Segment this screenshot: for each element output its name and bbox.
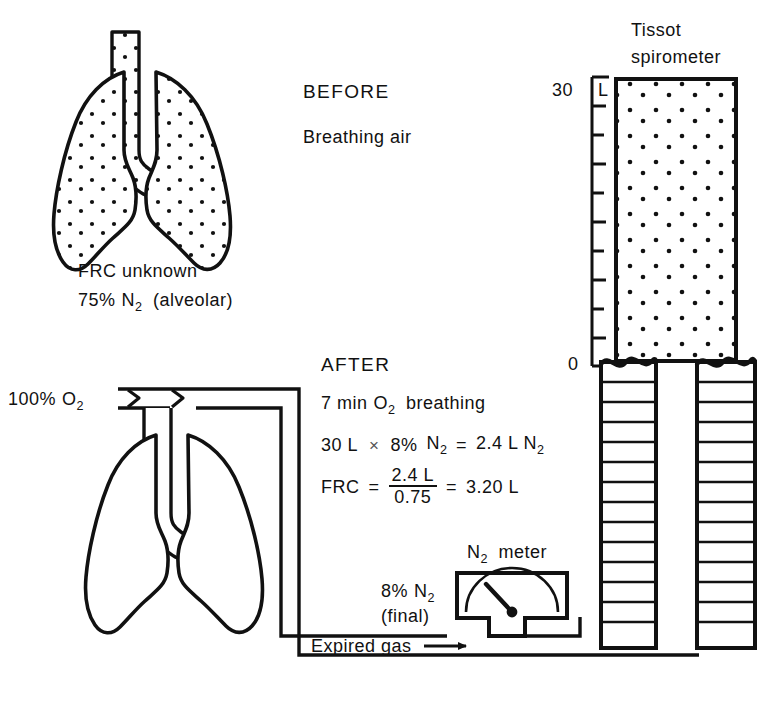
tank-left-wall <box>601 362 656 648</box>
oxygen-source-label: 100%O2 <box>8 390 84 412</box>
after-duration-value: 7 min <box>321 393 368 413</box>
equation1-equals: = <box>456 436 467 454</box>
water-tank-left-column <box>601 362 656 648</box>
frc-equation-equals-2: = <box>446 478 457 496</box>
frc-equation: FRC = 2.4 L 0.75 = 3.20 L <box>321 467 519 507</box>
tank-right-wall <box>697 362 755 648</box>
spirometer-scale-bottom-value: 0 <box>568 355 579 373</box>
n2-reading-gas-subscript: 2 <box>428 591 435 605</box>
frc-equation-label: FRC <box>321 478 360 496</box>
spirometer-scale-unit: L <box>598 81 609 99</box>
after-lungs-illustration <box>85 389 280 633</box>
spirometer-title-line2: spirometer <box>631 48 721 66</box>
after-breathing-duration: 7 minO2breathing <box>321 394 486 416</box>
after-right-lung <box>178 435 263 632</box>
frc-washout-figure: BEFORE Breathing air FRC unknown 75%N2(a… <box>0 0 771 704</box>
before-alveolar-note: (alveolar) <box>153 290 233 310</box>
before-lungs-illustration <box>53 32 230 270</box>
frc-fraction: 2.4 L 0.75 <box>389 466 438 506</box>
n2-meter-reading: 8%N2 <box>381 582 435 604</box>
before-subheading: Breathing air <box>303 128 412 146</box>
spirometer-scale-top-value: 30 <box>552 81 573 99</box>
n2-reading-state: (final) <box>381 607 430 625</box>
equation1-result-subscript: 2 <box>537 443 544 457</box>
before-frc-caption: FRC unknown <box>78 262 198 280</box>
equation1-result: 2.4 L N <box>476 433 537 453</box>
equation1-gas-term: N2 <box>427 434 448 456</box>
expiratory-valve-chevron <box>172 390 183 407</box>
y-valve-assembly <box>118 389 280 408</box>
oxygen-source-symbol: O <box>62 389 77 409</box>
nitrogen-volume-equation: 30 L × 8% N2 = 2.4 L N2 <box>321 434 544 456</box>
frc-equation-equals-1: = <box>369 478 380 496</box>
before-n2-symbol: N <box>122 290 136 310</box>
equation1-times-operator: × <box>367 437 381 454</box>
frc-fraction-numerator: 2.4 L <box>389 466 438 487</box>
n2-meter-body <box>457 573 567 636</box>
n2-reading-percent: 8% <box>381 581 408 601</box>
before-n2-subscript: 2 <box>135 300 142 314</box>
expired-gas-label: Expired gas <box>311 637 412 655</box>
n2-meter-pivot <box>507 607 518 618</box>
after-heading: AFTER <box>321 355 390 374</box>
spirometer-title-line1: Tissot <box>631 21 681 39</box>
n2-meter-word: meter <box>499 542 548 562</box>
frc-fraction-denominator: 0.75 <box>389 487 438 506</box>
after-duration-gas-subscript: 2 <box>388 403 395 417</box>
before-n2-percent: 75% <box>78 290 116 310</box>
spirometer-volume-scale <box>592 77 609 366</box>
after-duration-verb: breathing <box>406 393 486 413</box>
n2-meter-gas-subscript: 2 <box>481 552 488 566</box>
inspiratory-valve-chevron <box>128 390 139 407</box>
equation1-gas-symbol: N <box>427 433 441 453</box>
before-right-lung <box>146 72 231 269</box>
spirometer-bell-gas <box>616 79 736 361</box>
equation1-result-term: 2.4 L N2 <box>476 434 544 456</box>
water-tank-right-column <box>697 362 755 648</box>
after-left-lung <box>85 435 168 633</box>
before-alveolar-n2-caption: 75%N2(alveolar) <box>78 291 233 313</box>
equation1-percent: 8% <box>390 436 417 454</box>
n2-meter-instrument <box>457 568 567 636</box>
tissot-spirometer <box>592 77 755 648</box>
n2-meter-gas-symbol: N <box>467 542 481 562</box>
equation1-gas-subscript: 2 <box>440 443 447 457</box>
n2-meter-label: N2meter <box>467 543 547 565</box>
oxygen-source-subscript: 2 <box>77 399 84 413</box>
n2-reading-gas-symbol: N <box>414 581 428 601</box>
equation1-volume: 30 L <box>321 436 358 454</box>
before-heading: BEFORE <box>303 82 390 101</box>
after-duration-gas-symbol: O <box>374 393 389 413</box>
frc-equation-result: 3.20 L <box>466 478 519 496</box>
oxygen-source-percent: 100% <box>8 389 56 409</box>
before-left-lung <box>53 72 136 270</box>
